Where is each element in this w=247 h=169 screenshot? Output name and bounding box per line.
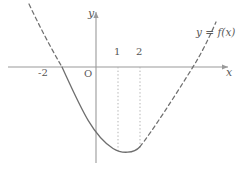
curve-solid bbox=[62, 67, 140, 152]
y-axis bbox=[93, 12, 98, 163]
x-axis-label: x bbox=[226, 66, 232, 79]
curve-dashed-right bbox=[140, 22, 216, 147]
origin-label: O bbox=[84, 68, 92, 79]
y-axis-label: y bbox=[88, 7, 94, 20]
function-label: y = f(x) bbox=[196, 26, 235, 38]
figure-canvas: y x O y = f(x) -2 1 2 bbox=[0, 0, 247, 169]
x-tick-label-minus-2: -2 bbox=[38, 67, 48, 78]
x-tick-label-2: 2 bbox=[136, 46, 142, 57]
x-tick-label-1: 1 bbox=[114, 46, 120, 57]
curve-dashed-left bbox=[29, 4, 62, 67]
